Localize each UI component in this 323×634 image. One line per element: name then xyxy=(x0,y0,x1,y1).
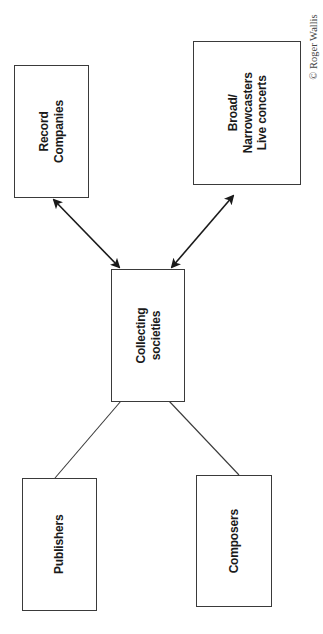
arrow-collecting-broad xyxy=(172,196,233,267)
node-collecting-societies-label: Collecting societies xyxy=(133,307,162,363)
label-line: Broad/ xyxy=(225,73,240,154)
label-line: Record xyxy=(37,100,52,163)
label-line: societies xyxy=(148,307,163,363)
line-collecting-publishers xyxy=(55,401,121,478)
node-composers-label: Composers xyxy=(227,509,242,573)
diagram-canvas: Record Companies Broad/ Narrowcasters Li… xyxy=(0,0,323,634)
copyright-notice: © Roger Wallis xyxy=(307,0,321,97)
label-line: Companies xyxy=(51,100,66,163)
node-broad-narrowcasters-label: Broad/ Narrowcasters Live concerts xyxy=(225,73,269,154)
node-record-companies-label: Record Companies xyxy=(37,100,66,163)
label-line: Collecting xyxy=(133,307,148,363)
line-collecting-composers xyxy=(169,401,239,475)
node-composers: Composers xyxy=(196,475,272,607)
node-record-companies: Record Companies xyxy=(14,65,89,198)
label-line: Live concerts xyxy=(254,73,269,154)
node-publishers: Publishers xyxy=(22,478,97,611)
node-broad-narrowcasters: Broad/ Narrowcasters Live concerts xyxy=(193,41,301,185)
label-line: Publishers xyxy=(52,515,67,574)
node-collecting-societies: Collecting societies xyxy=(111,269,185,402)
node-publishers-label: Publishers xyxy=(52,515,67,574)
label-line: Narrowcasters xyxy=(240,73,255,154)
label-line: Composers xyxy=(227,509,242,573)
arrow-collecting-record xyxy=(54,200,119,267)
